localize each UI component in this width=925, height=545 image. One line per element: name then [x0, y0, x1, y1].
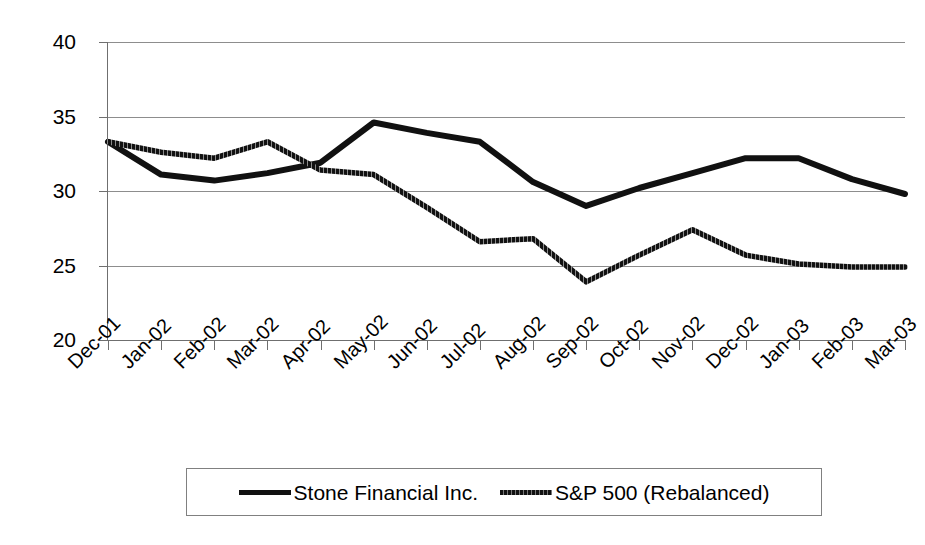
chart-legend: Stone Financial Inc. S&P 500 (Rebalanced…	[186, 468, 822, 516]
series-lines-group	[0, 0, 925, 545]
legend-label-stone-financial: Stone Financial Inc.	[294, 482, 478, 503]
legend-swatch-textured-line-icon	[500, 490, 552, 495]
stock-performance-chart: 2025303540 Dec-01Jan-02Feb-02Mar-02Apr-0…	[0, 0, 925, 545]
legend-item-stone-financial: Stone Financial Inc.	[239, 482, 478, 503]
legend-label-sp500: S&P 500 (Rebalanced)	[555, 482, 769, 503]
x-axis-category-labels: Dec-01Jan-02Feb-02Mar-02Apr-02May-02Jun-…	[0, 350, 925, 455]
legend-swatch-solid-line-icon	[239, 490, 291, 495]
legend-item-sp500: S&P 500 (Rebalanced)	[500, 482, 769, 503]
series-line-stone-financial	[108, 123, 905, 206]
